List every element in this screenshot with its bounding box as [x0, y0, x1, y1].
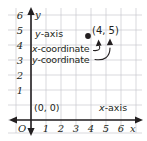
y-coordinate-callout-rest: -coordinate: [37, 54, 89, 65]
origin-coordinate-label: (0, 0): [34, 103, 60, 113]
x-coordinate-leader: [94, 47, 100, 51]
x-axis-variable-label: x: [130, 124, 136, 134]
x-coordinate-callout: x-coordinate: [32, 44, 89, 54]
x-tick-4: 4: [85, 124, 97, 134]
x-axis-name-label: x-axis: [99, 103, 127, 113]
x-tick-3: 3: [70, 124, 82, 134]
y-axis-variable-label: y: [35, 10, 41, 20]
x-tick-2: 2: [55, 124, 67, 134]
y-tick-1: 1: [14, 86, 26, 96]
y-tick-6: 6: [14, 11, 26, 21]
y-tick-5: 5: [14, 26, 26, 36]
data-point-4-5: [85, 33, 91, 39]
y-axis-name-rest: -axis: [41, 28, 63, 39]
origin-tick-label: O: [16, 124, 28, 134]
x-axis-name-rest: -axis: [105, 102, 127, 113]
x-tick-5: 5: [100, 124, 112, 134]
x-tick-6: 6: [115, 124, 127, 134]
y-axis-down-arrow: [27, 128, 34, 136]
x-coordinate-callout-rest: -coordinate: [37, 43, 89, 54]
y-coordinate-callout: y-coordinate: [32, 55, 89, 65]
y-tick-4: 4: [14, 41, 26, 51]
y-coordinate-arrowhead: [107, 39, 113, 46]
x-axis-left-arrow: [9, 116, 17, 123]
point-coordinate-label: (4, 5): [92, 26, 119, 36]
y-axis-up-arrow: [27, 7, 34, 15]
y-tick-3: 3: [14, 56, 26, 66]
y-coordinate-leader: [95, 48, 110, 60]
x-coordinate-arrowhead: [96, 40, 102, 47]
x-tick-1: 1: [40, 124, 52, 134]
y-axis-name-label: y-axis: [35, 29, 63, 39]
x-axis-right-arrow: [135, 116, 143, 123]
grid-lines: [8, 8, 142, 133]
y-tick-2: 2: [14, 71, 26, 81]
coordinate-plane-figure: 6 5 4 3 2 1 1 2 3 4 5 6 O y x y-axis x-a…: [0, 0, 147, 141]
